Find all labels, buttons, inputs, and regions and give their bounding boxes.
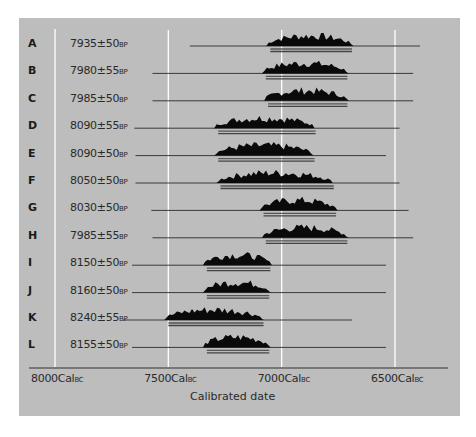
probability-distribution bbox=[262, 61, 352, 74]
row-label: D bbox=[28, 119, 48, 132]
probability-distribution bbox=[164, 307, 267, 320]
x-tick-label: 7500CalBC bbox=[144, 372, 196, 385]
x-tick-label: 8000CalBC bbox=[31, 372, 83, 385]
row-label: C bbox=[28, 92, 48, 105]
radiocarbon-date: 7980±55BP bbox=[70, 64, 128, 77]
probability-distribution bbox=[203, 252, 274, 265]
radiocarbon-date: 8090±55BP bbox=[70, 119, 128, 132]
row-label: I bbox=[28, 256, 48, 269]
probability-distribution bbox=[214, 116, 320, 128]
row-label: F bbox=[28, 174, 48, 187]
radiocarbon-date: 8150±50BP bbox=[70, 256, 128, 269]
row-label: A bbox=[28, 37, 48, 50]
radiocarbon-date: 7935±50BP bbox=[70, 37, 128, 50]
radiocarbon-date: 8050±50BP bbox=[70, 174, 128, 187]
x-tick-label: 6500CalBC bbox=[371, 372, 423, 385]
row-label: J bbox=[28, 284, 48, 297]
row-label: G bbox=[28, 201, 48, 214]
radiocarbon-date: 7985±50BP bbox=[70, 92, 128, 105]
probability-distribution bbox=[203, 281, 273, 293]
probability-distribution bbox=[262, 224, 352, 237]
radiocarbon-date: 8240±55BP bbox=[70, 311, 128, 324]
row-label: E bbox=[28, 147, 48, 160]
probability-distribution bbox=[203, 335, 273, 348]
row-label: H bbox=[28, 229, 48, 242]
radiocarbon-date: 8030±50BP bbox=[70, 201, 128, 214]
x-axis-label: Calibrated date bbox=[190, 390, 275, 403]
row-label: L bbox=[28, 338, 48, 351]
probability-distribution bbox=[214, 142, 318, 156]
radiocarbon-date: 7985±55BP bbox=[70, 229, 128, 242]
row-label: K bbox=[28, 311, 48, 324]
radiocarbon-date: 8155±50BP bbox=[70, 338, 128, 351]
probability-distribution bbox=[266, 33, 356, 46]
probability-distribution bbox=[264, 87, 351, 101]
radiocarbon-date: 8090±50BP bbox=[70, 147, 128, 160]
x-tick-label: 7000CalBC bbox=[258, 372, 310, 385]
row-label: B bbox=[28, 64, 48, 77]
probability-distribution bbox=[216, 170, 337, 183]
radiocarbon-date: 8160±50BP bbox=[70, 284, 128, 297]
probability-distribution bbox=[260, 197, 341, 211]
